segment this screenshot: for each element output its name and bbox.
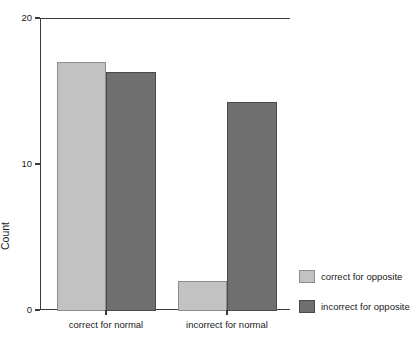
- x-tick-label: correct for normal: [69, 318, 143, 331]
- x-tick-label: incorrect for normal: [186, 318, 268, 331]
- x-tick-mark: [226, 310, 227, 315]
- bar-incorrect-normal-incorrect-opposite: [227, 102, 277, 311]
- legend-item-label: incorrect for opposite: [321, 299, 410, 314]
- y-tick-label: 20: [21, 11, 32, 24]
- light-gray-swatch-icon: [299, 270, 315, 283]
- dark-gray-swatch-icon: [299, 300, 315, 313]
- bar-incorrect-normal-correct-opposite: [178, 281, 227, 311]
- y-tick-label: 0: [27, 303, 32, 316]
- y-tick-label: 10: [21, 157, 32, 170]
- y-axis-title: Count: [0, 222, 11, 250]
- bar-chart: Count 20 10 0 correct for normal incorre…: [0, 0, 411, 343]
- bar-correct-normal-correct-opposite: [57, 62, 106, 311]
- x-tick-mark: [105, 310, 106, 315]
- bar-correct-normal-incorrect-opposite: [106, 72, 156, 311]
- legend-item-label: correct for opposite: [321, 269, 402, 284]
